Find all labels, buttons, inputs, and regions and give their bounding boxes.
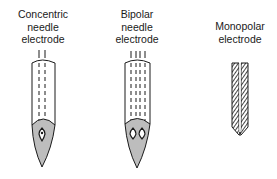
concentric-needle-electrode-icon <box>32 50 55 167</box>
bipolar-needle-electrode-icon <box>125 51 150 168</box>
monopolar-electrode-icon <box>232 63 248 135</box>
electrode-diagram <box>0 0 277 179</box>
